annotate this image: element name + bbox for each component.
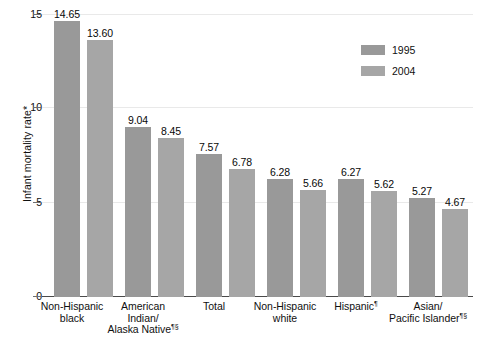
bar-2004-non-hispanic-white[interactable]: 5.66	[300, 190, 326, 297]
bar-2004-american-indian-alaska-native[interactable]: 8.45	[158, 138, 184, 297]
bar-2004-non-hispanic-black[interactable]: 13.60	[87, 40, 113, 297]
y-tick-mark-15	[33, 14, 41, 15]
bar-1995-non-hispanic-white[interactable]: 6.28	[267, 179, 293, 298]
bar-2004-hispanic[interactable]: 5.62	[371, 191, 397, 297]
bar-2004-asian-pacific-islander[interactable]: 4.67	[442, 209, 468, 297]
bar-value-label: 6.78	[232, 156, 252, 168]
bar-value-label: 5.27	[412, 185, 432, 197]
legend: 1995 2004	[361, 42, 471, 84]
footnote-marker: ¶	[374, 300, 378, 307]
bar-value-label: 5.62	[374, 178, 394, 190]
bar-1995-american-indian-alaska-native[interactable]: 9.04	[125, 127, 151, 298]
x-category-label-asian-pacific-islander: Asian/ Pacific Islander¶§	[379, 301, 477, 324]
y-tick-mark-5	[33, 202, 41, 203]
cat-line-2: white	[237, 313, 333, 325]
bar-value-label: 5.66	[303, 177, 323, 189]
y-tick-mark-10	[33, 107, 41, 108]
bar-value-label: 7.57	[199, 141, 219, 153]
bar-1995-non-hispanic-black[interactable]: 14.65	[54, 21, 80, 297]
bar-1995-asian-pacific-islander[interactable]: 5.27	[409, 198, 435, 297]
bar-1995-total[interactable]: 7.57	[196, 154, 222, 297]
bar-2004-total[interactable]: 6.78	[229, 169, 255, 297]
y-axis: 15 10 5 0	[0, 0, 42, 345]
cat-line-3-text: Alaska Native	[107, 323, 171, 335]
legend-item-2004[interactable]: 2004	[361, 63, 471, 79]
bar-value-label: 9.04	[128, 114, 148, 126]
cat-line-2: Pacific Islander¶§	[379, 313, 477, 325]
legend-label-1995: 1995	[392, 44, 415, 56]
bar-value-label: 8.45	[161, 125, 181, 137]
bar-value-label: 14.65	[54, 8, 80, 20]
infant-mortality-bar-chart: Infant mortality rate* 15 10 5 0 14.65 1…	[0, 0, 477, 345]
bar-value-label: 4.67	[445, 196, 465, 208]
bar-value-label: 6.27	[341, 166, 361, 178]
legend-label-2004: 2004	[392, 65, 415, 77]
cat-line-1-text: Hispanic	[334, 300, 374, 312]
y-tick-mark-0	[33, 296, 41, 297]
legend-swatch-1995	[361, 45, 385, 55]
footnote-marker: ¶§	[171, 323, 179, 330]
bar-group-non-hispanic-white: 6.28 5.66	[267, 0, 326, 297]
bar-group-non-hispanic-black: 14.65 13.60	[54, 0, 113, 297]
bar-value-label: 6.28	[270, 166, 290, 178]
footnote-marker: ¶§	[459, 311, 467, 318]
legend-item-1995[interactable]: 1995	[361, 42, 471, 58]
cat-line-3: Alaska Native¶§	[95, 324, 191, 336]
bar-1995-hispanic[interactable]: 6.27	[338, 179, 364, 297]
bar-group-total: 7.57 6.78	[196, 0, 255, 297]
bar-value-label: 13.60	[87, 27, 113, 39]
bar-group-american-indian-alaska-native: 9.04 8.45	[125, 0, 184, 297]
cat-line-2-text: Pacific Islander	[389, 312, 459, 324]
legend-swatch-2004	[361, 66, 385, 76]
